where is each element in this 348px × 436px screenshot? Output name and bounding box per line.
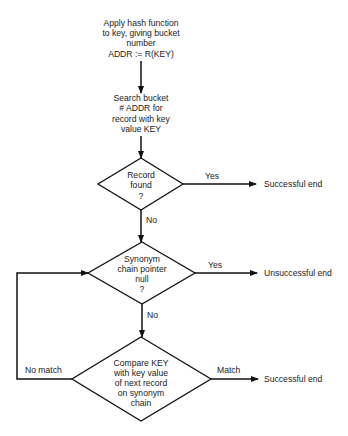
label-compare-match: Match [217, 365, 241, 375]
decision-compare-key: Compare KEY with key value of next recor… [72, 337, 211, 421]
search-line-3: record with key [112, 114, 170, 124]
compare-line-2: with key value [113, 368, 168, 378]
compare-line-4: on synonym [118, 388, 164, 398]
found-line-3: ? [139, 191, 144, 201]
step-search-bucket: Search bucket # ADDR for record with key… [112, 93, 170, 134]
null-line-4: ? [140, 284, 145, 294]
terminal-successful-end-2: Successful end [264, 374, 323, 384]
null-line-1: Synonym [124, 254, 160, 264]
search-line-4: value KEY [121, 124, 161, 134]
null-line-3: null [135, 274, 148, 284]
search-line-2: # ADDR for [119, 103, 163, 113]
hash-line-3: number [126, 38, 155, 48]
hash-line-4: ADDR := R(KEY) [108, 49, 174, 59]
hash-line-2: to key, giving bucket [102, 28, 180, 38]
step-apply-hash: Apply hash function to key, giving bucke… [102, 18, 180, 59]
flowchart: Apply hash function to key, giving bucke… [0, 0, 348, 436]
search-line-1: Search bucket [114, 93, 170, 103]
label-null-yes: Yes [208, 260, 222, 270]
null-line-2: chain pointer [117, 264, 166, 274]
compare-line-1: Compare KEY [114, 358, 169, 368]
label-found-no: No [146, 215, 157, 225]
terminal-successful-end-1: Successful end [264, 179, 323, 189]
compare-line-3: of next record [115, 378, 168, 388]
label-compare-nomatch: No match [25, 365, 62, 375]
compare-line-5: chain [131, 398, 152, 408]
label-null-no: No [147, 310, 158, 320]
decision-record-found: Record found ? [98, 158, 183, 210]
found-line-2: found [130, 180, 152, 190]
hash-line-1: Apply hash function [103, 18, 178, 28]
terminal-unsuccessful-end: Unsuccessful end [264, 268, 332, 278]
arrow-compare-nomatch-loop [17, 273, 88, 379]
label-found-yes: Yes [205, 171, 219, 181]
found-line-1: Record [127, 170, 155, 180]
decision-pointer-null: Synonym chain pointer null ? [88, 242, 195, 304]
